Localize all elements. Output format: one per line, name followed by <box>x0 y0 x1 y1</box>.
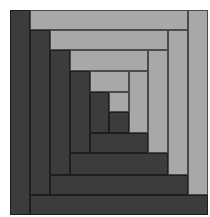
ring1-bottom-dark-strip <box>50 175 188 195</box>
ring3-bottom-dark-strip <box>90 133 148 153</box>
ring1-left-dark-strip <box>30 30 50 195</box>
ring3-top-light-strip <box>90 71 129 92</box>
ring2-right-light-strip <box>148 50 168 153</box>
ring2-left-dark-strip <box>50 50 70 175</box>
ring0-top-light-strip <box>30 10 188 30</box>
ring3-right-light-strip <box>129 71 148 133</box>
ring1-top-light-strip <box>50 30 168 50</box>
ring1-right-light-strip <box>168 30 188 175</box>
ring3-left-dark-strip <box>70 71 90 153</box>
ring0-left-dark-strip <box>10 10 30 215</box>
ring0-right-light-strip <box>188 10 208 195</box>
log-cabin-quilt-block <box>0 0 210 217</box>
ring2-bottom-dark-strip <box>70 153 168 175</box>
center-dark-square-strip <box>109 112 129 133</box>
ring0-bottom-dark-strip <box>30 195 208 215</box>
center-left-dark-strip <box>90 92 109 133</box>
ring2-top-light-strip <box>70 50 148 71</box>
center-light-square-strip <box>109 92 129 112</box>
